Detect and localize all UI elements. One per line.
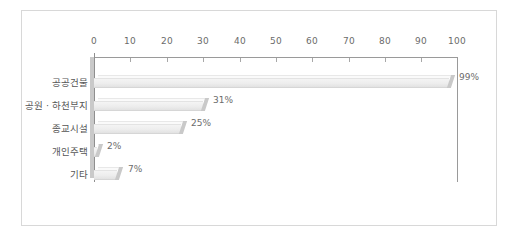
bar-0[interactable] [94, 75, 454, 88]
x-tick-mark-10 [130, 58, 131, 62]
x-tick-label-30: 30 [197, 36, 209, 46]
x-tick-label-40: 40 [234, 36, 246, 46]
x-tick-label-90: 90 [415, 36, 427, 46]
bar-row: 종교시설 25% [0, 117, 519, 139]
x-tick-mark-50 [276, 58, 277, 62]
bar-2[interactable] [94, 121, 190, 134]
bar-3[interactable] [94, 144, 105, 157]
bar-row: 공공건물 99% [0, 71, 519, 93]
bar-row: 개인주택 2% [0, 140, 519, 162]
x-tick-label-0: 0 [91, 36, 97, 46]
bar-body-1 [94, 101, 203, 111]
category-label-0: 공공건물 [0, 75, 94, 89]
x-tick-mark-60 [312, 58, 313, 62]
bar-value-label-1: 31% [213, 95, 233, 105]
bar-end-cap-3 [95, 144, 103, 157]
x-tick-mark-90 [421, 58, 422, 62]
x-tick-mark-80 [385, 58, 386, 62]
bar-body-2 [94, 124, 181, 134]
bar-chart-plot: 0 10 20 30 40 50 60 70 80 90 100 공공건물 99… [0, 0, 519, 247]
x-tick-label-20: 20 [161, 36, 173, 46]
category-label-3: 개인주택 [0, 144, 94, 158]
bar-value-label-4: 7% [128, 164, 142, 174]
bar-body-0 [94, 78, 449, 88]
bar-value-label-2: 25% [191, 118, 211, 128]
x-tick-mark-30 [203, 58, 204, 62]
bar-value-label-3: 2% [107, 141, 121, 151]
x-tick-mark-70 [349, 58, 350, 62]
category-label-1: 공원 · 하천부지 [0, 98, 94, 112]
x-tick-label-70: 70 [343, 36, 355, 46]
bar-row: 기타 7% [0, 163, 519, 185]
bar-value-label-0: 99% [459, 72, 479, 82]
bar-4[interactable] [94, 167, 125, 180]
x-tick-mark-20 [167, 58, 168, 62]
x-tick-label-10: 10 [124, 36, 136, 46]
category-label-2: 종교시설 [0, 121, 94, 135]
x-tick-mark-40 [240, 58, 241, 62]
x-tick-label-50: 50 [270, 36, 282, 46]
category-label-4: 기타 [0, 167, 94, 181]
bar-1[interactable] [94, 98, 212, 111]
x-tick-label-100: 100 [448, 36, 466, 46]
x-tick-label-80: 80 [379, 36, 391, 46]
bar-row: 공원 · 하천부지 31% [0, 94, 519, 116]
x-tick-label-60: 60 [306, 36, 318, 46]
bar-body-4 [94, 170, 117, 180]
